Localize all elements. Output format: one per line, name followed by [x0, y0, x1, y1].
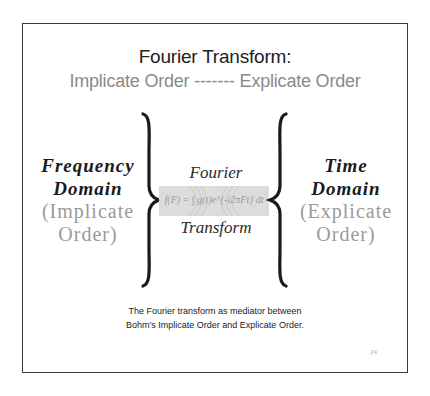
caption: The Fourier transform as mediator betwee…: [23, 304, 407, 332]
frequency-heading-line2: Domain: [33, 177, 143, 200]
caption-line2: Bohm's Implicate Order and Explicate Ord…: [23, 318, 407, 332]
fourier-label: Fourier: [157, 163, 275, 183]
fourier-formula-image: f(F) = ∫ g(t)e^{-i2πFt} dt: [159, 186, 269, 216]
formula-text: f(F) = ∫ g(t)e^{-i2πFt} dt: [159, 194, 269, 205]
slide: Fourier Transform: Implicate Order -----…: [22, 23, 408, 373]
slide-title: Fourier Transform:: [23, 46, 407, 68]
time-heading-line2: Domain: [291, 177, 401, 200]
time-heading-line1: Time: [291, 154, 401, 177]
time-domain-block: Time Domain (Explicate Order): [291, 154, 401, 246]
left-curly-brace-icon: [266, 112, 288, 288]
transform-label: Transform: [157, 218, 275, 238]
caption-line1: The Fourier transform as mediator betwee…: [23, 304, 407, 318]
explicate-order-line2: Order): [291, 223, 401, 246]
explicate-order-line1: (Explicate: [291, 200, 401, 223]
frequency-domain-block: Frequency Domain (Implicate Order): [33, 154, 143, 246]
implicate-order-line1: (Implicate: [33, 200, 143, 223]
implicate-order-line2: Order): [33, 223, 143, 246]
page-number: 24: [370, 349, 377, 355]
frequency-heading-line1: Frequency: [33, 154, 143, 177]
slide-subtitle: Implicate Order ------- Explicate Order: [23, 71, 407, 92]
